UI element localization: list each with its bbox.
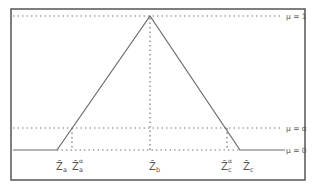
svg-text:α: α (228, 157, 232, 164)
svg-text:α: α (79, 157, 83, 164)
svg-text:a: a (79, 166, 83, 174)
svg-text:a: a (63, 166, 67, 174)
membership-diagram: μ = 1 μ = α μ = 0 Z̃ a Z̃ a α Z̃ b Z̃ c … (0, 0, 320, 189)
x-label-zc: Z̃ c (243, 160, 254, 174)
x-label-za-alpha: Z̃ a α (72, 157, 83, 174)
svg-text:Z̃: Z̃ (56, 160, 63, 172)
svg-text:Z̃: Z̃ (72, 160, 79, 172)
x-label-zc-alpha: Z̃ c α (221, 157, 232, 174)
svg-text:Z̃: Z̃ (149, 160, 156, 172)
membership-curve (13, 16, 285, 150)
svg-text:c: c (250, 166, 254, 174)
svg-text:Z̃: Z̃ (243, 160, 250, 172)
label-mu1: μ = 1 (286, 12, 307, 21)
diagram-frame (11, 9, 305, 180)
svg-text:c: c (228, 166, 232, 174)
svg-text:b: b (156, 166, 160, 174)
label-mu0: μ = 0 (286, 146, 307, 155)
x-label-za: Z̃ a (56, 160, 67, 174)
svg-text:Z̃: Z̃ (221, 160, 228, 172)
label-mualpha: μ = α (286, 124, 307, 133)
x-label-zb: Z̃ b (149, 160, 160, 174)
